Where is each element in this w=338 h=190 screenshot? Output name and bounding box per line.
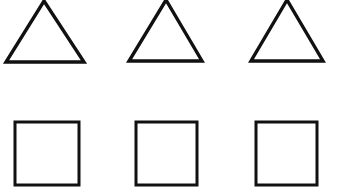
square-shape-2 <box>136 122 197 185</box>
shape-figure <box>0 0 338 190</box>
square-shape-1 <box>15 122 79 185</box>
shape-canvas <box>0 0 338 190</box>
square-shape-3 <box>256 122 317 185</box>
square-row <box>15 122 317 185</box>
